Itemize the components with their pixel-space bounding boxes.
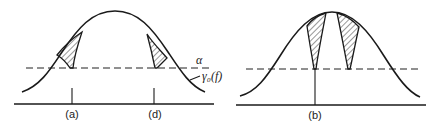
marker-label-d: (d) [148, 108, 161, 120]
right-panel: (b) [236, 12, 426, 121]
marker-label-a: (a) [65, 108, 78, 120]
diagram-canvas: (a) (d) α γ₀(f) (b) [0, 0, 440, 125]
curve-label-pointer [190, 76, 200, 80]
right-notch-left [307, 13, 326, 69]
marker-label-b: (b) [308, 109, 321, 121]
curve-label-gamma: γ₀(f) [202, 69, 222, 83]
left-panel: (a) (d) α γ₀(f) [14, 11, 222, 120]
right-gaussian-curve [240, 12, 420, 97]
alpha-label: α [196, 53, 203, 67]
left-notch-a [57, 32, 82, 68]
left-notch-d [147, 34, 167, 68]
left-gaussian-curve [22, 11, 205, 92]
